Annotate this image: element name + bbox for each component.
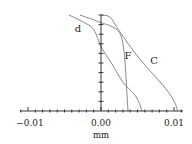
curve-c (101, 15, 178, 111)
axes (20, 15, 183, 113)
aberration-chart: −0.01 0.00 0.01 mm d F C (0, 0, 192, 144)
curve-f (80, 15, 128, 111)
x-tick-label-pos: 0.01 (164, 118, 184, 128)
x-tick-label-zero: 0.00 (91, 118, 111, 128)
x-tick-label-neg: −0.01 (16, 118, 44, 128)
curve-label-f: F (125, 50, 132, 61)
plot-curves (69, 15, 178, 111)
curve-label-c: C (150, 55, 158, 66)
x-axis-ticks (21, 107, 182, 113)
curve-label-d: d (75, 23, 82, 34)
x-axis-unit-label: mm (93, 130, 109, 140)
